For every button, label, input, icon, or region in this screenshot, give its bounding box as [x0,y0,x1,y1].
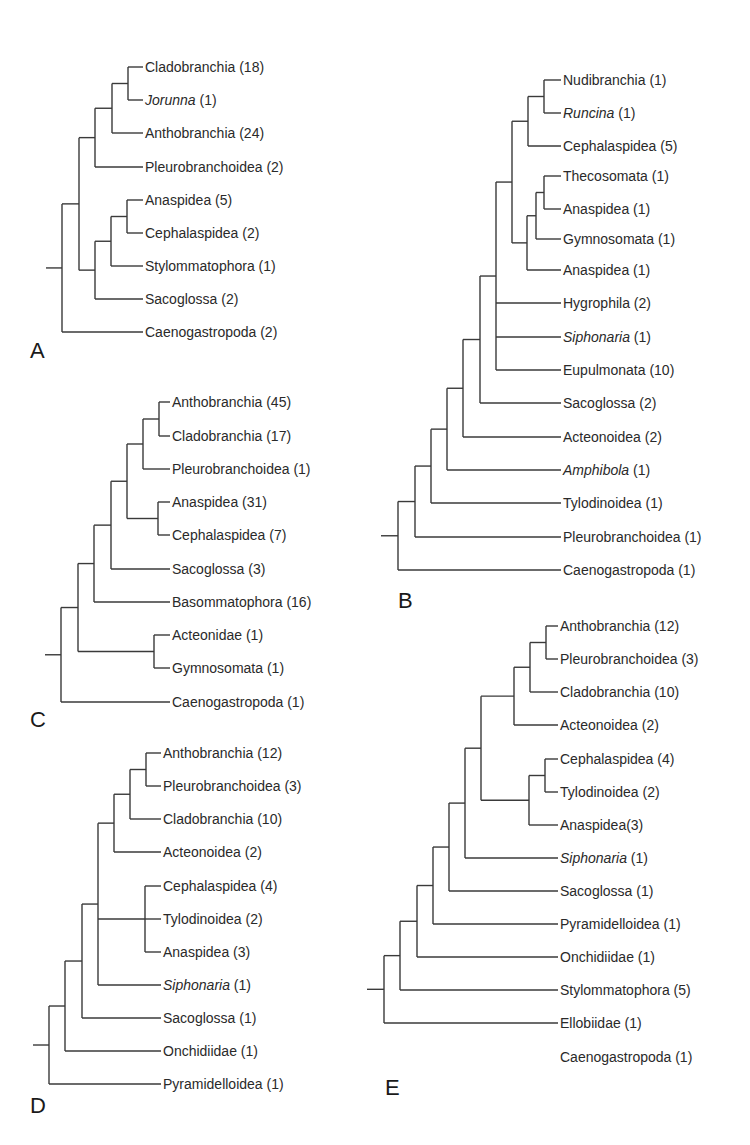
taxon-count: (45) [262,394,291,410]
taxon-count: (2) [641,429,662,445]
taxon-count: (1) [627,850,648,866]
taxon-count: (12) [650,618,679,634]
taxon-count: (3) [229,944,250,960]
taxon-count: (1) [671,1049,692,1065]
taxon-label: Cladobranchia (10) [560,684,679,700]
taxon-name: Anaspidea [560,817,626,833]
taxon-name: Cladobranchia [163,811,253,827]
taxon-name: Caenogastropoda [145,324,257,340]
taxon-name: Cephalaspidea [172,527,266,543]
taxon-name: Sacoglossa [163,1010,236,1026]
taxon-name: Nudibranchia [563,72,646,88]
taxon-label: Anaspidea (5) [145,192,232,208]
taxon-count: (1) [681,529,702,545]
taxon-count: (2) [217,291,238,307]
taxon-name: Acteonoidea [163,844,241,860]
taxon-count: (1) [654,231,675,247]
taxon-name: Siphonaria [560,850,627,866]
taxon-count: (1) [660,916,681,932]
taxon-label: Basommatophora (16) [172,594,311,610]
taxon-label: Acteonoidea (2) [560,717,659,733]
taxon-label: Stylommatophora (5) [560,982,691,998]
taxon-label: Siphonaria (1) [563,329,651,345]
taxon-label: Hygrophila (2) [563,295,651,311]
taxon-name: Thecosomata [563,168,648,184]
taxon-label: Anthobranchia (45) [172,394,291,410]
taxon-label: Anaspidea (1) [563,201,650,217]
taxon-label: Ellobiidae (1) [560,1015,642,1031]
taxon-label: Pleurobranchoidea (3) [560,651,699,667]
taxon-count: (31) [238,494,267,510]
taxon-count: (12) [253,745,282,761]
panel-letter: A [30,338,45,363]
taxon-count: (1) [629,262,650,278]
panel-a: Cladobranchia (18)Jorunna (1)Anthobranch… [30,59,284,363]
taxon-label: Onchidiidae (1) [560,949,655,965]
taxon-label: Anaspidea (3) [163,944,250,960]
taxon-label: Cladobranchia (17) [172,428,291,444]
taxon-name: Anaspidea [145,192,211,208]
taxon-name: Amphibola [562,462,629,478]
taxon-label: Sacoglossa (1) [163,1010,256,1026]
taxon-count: (2) [630,295,651,311]
taxon-count: (4) [256,878,277,894]
taxon-label: Pleurobranchoidea (1) [172,461,311,477]
taxon-name: Sacoglossa [560,883,633,899]
taxon-count: (2) [263,159,284,175]
taxon-name: Pleurobranchoidea [560,651,678,667]
taxon-label: Gymnosomata (1) [563,231,675,247]
taxon-label: Sacoglossa (2) [145,291,238,307]
taxon-label: Anaspidea(3) [560,817,643,833]
taxon-label: Nudibranchia (1) [563,72,667,88]
taxon-count: (18) [235,59,264,75]
taxon-name: Acteonoidea [563,429,641,445]
taxon-name: Siphonaria [163,977,230,993]
taxon-label: Onchidiidae (1) [163,1043,258,1059]
taxon-label: Pyramidelloidea (1) [163,1076,284,1092]
taxon-label: Cephalaspidea (4) [163,878,277,894]
taxon-count: (3) [626,817,643,833]
taxon-name: Anthobranchia [145,125,236,141]
taxon-name: Stylommatophora [145,258,255,274]
taxon-label: Jorunna (1) [144,92,217,108]
taxon-label: Runcina (1) [563,105,635,121]
panel-letter: D [30,1093,46,1118]
taxon-label: Sacoglossa (3) [172,561,265,577]
taxon-label: Gymnosomata (1) [172,660,284,676]
taxon-count: (1) [642,495,663,511]
taxon-label: Anaspidea (31) [172,494,267,510]
taxon-label: Eupulmonata (10) [563,362,674,378]
taxon-name: Gymnosomata [172,660,263,676]
taxon-count: (5) [670,982,691,998]
taxon-count: (1) [632,883,653,899]
taxon-name: Acteonidae [172,627,242,643]
taxon-count: (10) [646,362,675,378]
taxon-label: Sacoglossa (2) [563,395,656,411]
taxon-name: Sacoglossa [145,291,218,307]
taxon-count: (1) [235,1010,256,1026]
taxon-label: Tylodinoidea (1) [563,495,663,511]
taxon-name: Cephalaspidea [560,751,654,767]
taxon-count: (24) [235,125,264,141]
taxon-name: Cephalaspidea [145,225,239,241]
taxon-label: Anthobranchia (24) [145,125,264,141]
taxon-count: (2) [238,225,259,241]
taxon-label: Acteonidae (1) [172,627,263,643]
taxon-count: (5) [656,138,677,154]
taxon-name: Tylodinoidea [163,911,242,927]
taxon-count: (1) [242,627,263,643]
taxon-count: (3) [678,651,699,667]
taxon-label: Anthobranchia (12) [560,618,679,634]
taxon-name: Cladobranchia [172,428,262,444]
taxon-label: Pleurobranchoidea (2) [145,159,284,175]
taxon-label: Caenogastropoda (1) [563,562,695,578]
taxon-count: (7) [265,527,286,543]
taxon-label: Cephalaspidea (4) [560,751,674,767]
taxon-count: (3) [281,778,302,794]
taxon-label: Anaspidea (1) [563,262,650,278]
taxon-count: (1) [263,1076,284,1092]
panel-letter: C [30,707,46,732]
panel-letter: E [385,1075,400,1100]
taxon-count: (2) [241,844,262,860]
taxon-name: Anaspidea [163,944,229,960]
